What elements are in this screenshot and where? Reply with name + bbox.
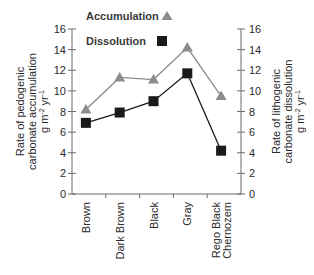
right-y-tick-label: 8 [249,106,255,118]
triangle-marker [182,42,193,52]
left-y-tick-label: 2 [60,167,66,179]
axis-title-line: g m-2 yr-1 [294,90,306,133]
right-y-tick-label: 2 [249,167,255,179]
left-y-tick-label: 0 [60,188,66,200]
axis-title-line: carbonate dissolution [282,60,294,164]
left-y-axis-title: Rate of pedogeniccarbonate accumulationg… [14,53,50,170]
square-icon [157,36,167,46]
category-text: Brown [80,202,92,233]
square-marker [81,118,91,128]
right-y-tick-label: 12 [249,64,261,76]
right-y-axis-title: Rate of lithogeniccarbonate dissolutiong… [270,60,306,164]
x-category-label: Gray [181,202,193,226]
x-category-label: Black [148,202,160,229]
series-markers [80,42,226,156]
square-marker [115,108,125,118]
x-category-label: Dark Brown [114,202,126,259]
x-category-label: Brown [80,202,92,233]
x-category-labels: BrownDark BrownBlackGrayRego BlackCherno… [80,202,233,260]
chart: 00224466881010121214141616 BrownDark Bro… [0,0,314,275]
triangle-icon [162,11,173,20]
category-text: Black [148,202,160,229]
legend-dissolution-label: Dissolution [86,35,146,47]
right-y-tick-label: 16 [249,23,261,35]
square-marker [216,146,226,156]
x-category-label: Rego BlackChernozem [210,202,233,259]
dissolution-line [86,73,221,150]
axis-title-line: g m-2 yr-1 [38,90,50,133]
axis-title-line: Rate of lithogenic [270,69,282,154]
axis-title-line: carbonate accumulation [26,53,38,170]
category-text: Chernozem [221,202,233,259]
left-y-tick-label: 16 [54,23,66,35]
right-y-tick-label: 4 [249,147,255,159]
legend-accumulation-label: Accumulation [86,10,159,22]
axis-title-line: Rate of pedogenic [14,66,26,156]
left-y-tick-label: 8 [60,106,66,118]
triangle-marker [114,72,125,82]
left-y-tick-label: 14 [54,44,66,56]
right-y-tick-label: 6 [249,126,255,138]
left-y-tick-label: 4 [60,147,66,159]
right-y-tick-label: 10 [249,85,261,97]
left-y-tick-label: 10 [54,85,66,97]
right-y-tick-label: 14 [249,44,261,56]
left-y-tick-label: 6 [60,126,66,138]
square-marker [149,96,159,106]
category-text: Gray [181,202,193,226]
category-text: Dark Brown [114,202,126,259]
right-y-tick-label: 0 [249,188,255,200]
left-y-tick-label: 12 [54,64,66,76]
legend: Accumulation Dissolution [86,10,173,47]
square-marker [182,68,192,78]
axes [72,29,241,198]
triangle-marker [216,91,227,101]
